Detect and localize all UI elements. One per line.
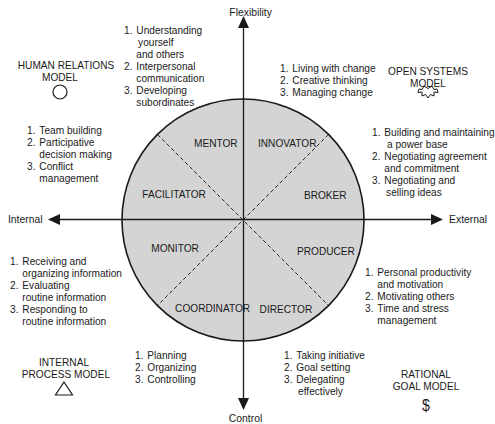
role-innovator: INNOVATOR	[258, 137, 316, 149]
list-item: 1.Team building	[27, 124, 112, 136]
model-rational-goal: RATIONAL GOAL MODEL $	[389, 368, 463, 416]
competency-list-facilitator: 1.Team building 2.Participativedecision …	[27, 124, 112, 184]
model-title-line1: OPEN SYSTEMS	[388, 65, 469, 77]
list-item: 2.Motivating others	[365, 290, 471, 302]
list-item: 3.Time and stressmanagement	[365, 302, 471, 326]
model-title-line2: GOAL MODEL	[389, 380, 463, 392]
model-title-line2: PROCESS MODEL	[22, 368, 106, 380]
axis-label-internal: Internal	[8, 213, 43, 225]
role-monitor: MONITOR	[151, 242, 199, 254]
arrow-right-icon	[431, 214, 443, 225]
competency-list-mentor: 1.Understandingyourselfand others 2.Inte…	[124, 24, 204, 108]
role-producer: PRODUCER	[297, 245, 355, 257]
competency-list-director: 1.Taking initiative 2.Goal setting 3.Del…	[284, 349, 365, 397]
role-coordinator: COORDINATOR	[175, 302, 250, 314]
competency-list-coordinator: 1.Planning 2.Organizing 3.Controlling	[135, 349, 196, 385]
competency-list-monitor: 1.Receiving andorganizing information 2.…	[10, 255, 122, 327]
dollar-icon: $	[389, 396, 463, 416]
list-item: 1.Receiving andorganizing information	[10, 255, 122, 279]
role-director: DIRECTOR	[260, 303, 313, 315]
list-item: 2.Goal setting	[284, 361, 365, 373]
list-item: 2.Participativedecision making	[27, 136, 112, 160]
model-title-line1: INTERNAL	[22, 356, 106, 368]
list-item: 3.Developingsubordinates	[124, 84, 204, 108]
list-item: 1.Understandingyourselfand others	[124, 24, 204, 60]
list-item: 1.Planning	[135, 349, 196, 361]
list-item: 2.Organizing	[135, 361, 196, 373]
list-item: 3.Managing change	[280, 86, 376, 98]
competency-list-broker: 1.Building and maintaininga power base 2…	[372, 126, 495, 198]
model-internal-process: INTERNAL PROCESS MODEL	[22, 356, 106, 380]
model-title-line1: RATIONAL	[389, 368, 463, 380]
model-title-line1: HUMAN RELATIONS	[18, 59, 102, 71]
list-item: 1.Living with change	[280, 62, 376, 74]
axis-label-flexibility: Flexibility	[229, 6, 272, 18]
list-item: 1.Taking initiative	[284, 349, 365, 361]
model-human-relations: HUMAN RELATIONS MODEL	[18, 59, 102, 83]
list-item: 3.Controlling	[135, 373, 196, 385]
list-item: 3.Responding toroutine information	[10, 303, 122, 327]
triangle-icon	[56, 382, 73, 395]
axis-label-control: Control	[229, 412, 262, 424]
model-open-systems: OPEN SYSTEMS MODEL	[388, 65, 469, 89]
role-mentor: MENTOR	[194, 137, 238, 149]
list-item: 2.Creative thinking	[280, 74, 376, 86]
role-facilitator: FACILITATOR	[142, 188, 206, 200]
axis-label-external: External	[449, 213, 487, 225]
arrow-left-icon	[48, 214, 60, 225]
competency-list-innovator: 1.Living with change 2.Creative thinking…	[280, 62, 376, 98]
model-title-line2: MODEL	[388, 77, 469, 89]
circle-icon	[53, 85, 67, 99]
list-item: 2.Negotiating agreementand commitment	[372, 150, 495, 174]
list-item: 2.Evaluatingroutine information	[10, 279, 122, 303]
list-item: 3.Conflictmanagement	[27, 160, 112, 184]
competency-list-producer: 1.Personal productivityand motivation 2.…	[365, 266, 471, 326]
list-item: 1.Personal productivityand motivation	[365, 266, 471, 290]
model-title-line2: MODEL	[18, 71, 102, 83]
list-item: 1.Building and maintaininga power base	[372, 126, 495, 150]
arrow-down-icon	[238, 398, 249, 410]
list-item: 3.Delegatingeffectively	[284, 373, 365, 397]
role-broker: BROKER	[304, 189, 347, 201]
list-item: 2.Interpersonalcommunication	[124, 60, 204, 84]
list-item: 3.Negotiating andselling ideas	[372, 174, 495, 198]
